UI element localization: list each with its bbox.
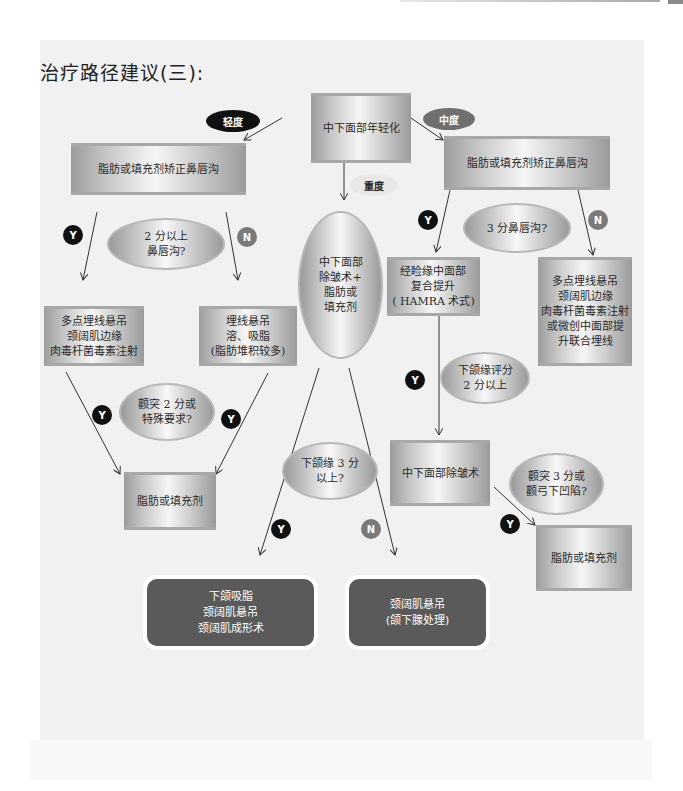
no-badge: N bbox=[237, 227, 257, 247]
yes-label: Y bbox=[411, 375, 418, 386]
severe-step-label: 中下面部 除皱术+ 脂肪或 填充剂 bbox=[319, 255, 363, 315]
severe-step: 中下面部 除皱术+ 脂肪或 填充剂 bbox=[298, 211, 383, 359]
yes-badge: Y bbox=[405, 370, 425, 390]
severe-badge: 重度 bbox=[350, 174, 398, 196]
mild-no-result: 埋线悬吊 溶、吸脂 (脂肪堆积较多) bbox=[199, 306, 297, 366]
no-badge: N bbox=[361, 519, 381, 539]
moderate-question-1-label: 3 分鼻唇沟? bbox=[487, 221, 547, 236]
moderate-no-result-label: 多点埋线悬吊 颈阔肌边缘 肉毒杆菌毒素注射 或微创中面部提 升联合埋线 bbox=[541, 274, 629, 349]
mild-yes-result-label: 多点埋线悬吊 颈阔肌边缘 肉毒杆菌毒素注射 bbox=[50, 314, 138, 359]
moderate-question-3: 颧突 3 分或 颧弓下凹陷? bbox=[509, 453, 604, 515]
moderate-question-3-label: 颧突 3 分或 颧弓下凹陷? bbox=[526, 469, 587, 499]
severe-question-label: 下颌缘 3 分 以上? bbox=[301, 456, 359, 486]
moderate-final-label: 脂肪或填充剂 bbox=[551, 551, 617, 566]
moderate-first-step-label: 脂肪或填充剂矫正鼻唇沟 bbox=[467, 156, 588, 171]
mild-question-2: 颧突 2 分或 特殊要求? bbox=[119, 383, 215, 441]
severe-yes-result-label: 下颌吸脂 颈阔肌悬吊 颈阔肌成形术 bbox=[198, 589, 264, 637]
root-label: 中下面部年轻化 bbox=[323, 121, 400, 136]
moderate-no-result: 多点埋线悬吊 颈阔肌边缘 肉毒杆菌毒素注射 或微创中面部提 升联合埋线 bbox=[538, 257, 632, 366]
mild-question-1: 2 分以上 鼻唇沟? bbox=[107, 218, 225, 270]
mild-yes-result: 多点埋线悬吊 颈阔肌边缘 肉毒杆菌毒素注射 bbox=[44, 306, 144, 366]
no-label: N bbox=[243, 232, 251, 243]
yes-badge: Y bbox=[418, 210, 438, 230]
moderate-first-step: 脂肪或填充剂矫正鼻唇沟 bbox=[444, 136, 610, 190]
mild-first-step-label: 脂肪或填充剂矫正鼻唇沟 bbox=[98, 162, 219, 177]
yes-badge: Y bbox=[221, 409, 241, 429]
moderate-label: 中度 bbox=[439, 112, 459, 127]
yes-label: Y bbox=[98, 410, 105, 421]
severe-label: 重度 bbox=[364, 178, 384, 193]
severe-yes-result: 下颌吸脂 颈阔肌悬吊 颈阔肌成形术 bbox=[143, 575, 318, 650]
severe-no-result-label: 颈阔肌悬吊 (颌下腺处理) bbox=[386, 597, 450, 629]
yes-badge: Y bbox=[271, 519, 291, 539]
mild-label: 轻度 bbox=[223, 114, 243, 129]
mild-question-2-label: 颧突 2 分或 特殊要求? bbox=[138, 397, 196, 427]
mild-badge: 轻度 bbox=[206, 110, 260, 132]
yes-label: Y bbox=[227, 414, 234, 425]
moderate-step-2-label: 中下面部除皱术 bbox=[402, 466, 479, 481]
moderate-step-2: 中下面部除皱术 bbox=[390, 440, 490, 506]
yes-badge: Y bbox=[92, 405, 112, 425]
yes-label: Y bbox=[69, 230, 76, 241]
moderate-question-2: 下颌缘评分 2 分以上 bbox=[440, 352, 530, 404]
mild-first-step: 脂肪或填充剂矫正鼻唇沟 bbox=[71, 143, 246, 195]
moderate-badge: 中度 bbox=[423, 108, 475, 130]
yes-label: Y bbox=[277, 524, 284, 535]
severe-no-result: 颈阔肌悬吊 (颌下腺处理) bbox=[345, 575, 490, 650]
no-label: N bbox=[594, 215, 602, 226]
yes-badge: Y bbox=[63, 225, 83, 245]
moderate-final: 脂肪或填充剂 bbox=[536, 525, 632, 591]
yes-label: Y bbox=[506, 519, 513, 530]
moderate-question-1: 3 分鼻唇沟? bbox=[463, 203, 571, 253]
mild-question-1-label: 2 分以上 鼻唇沟? bbox=[144, 229, 188, 259]
moderate-question-2-label: 下颌缘评分 2 分以上 bbox=[458, 363, 513, 393]
root-node: 中下面部年轻化 bbox=[311, 93, 411, 163]
no-badge: N bbox=[588, 210, 608, 230]
no-label: N bbox=[367, 524, 375, 535]
moderate-yes-result: 经睑缘中面部 复合提升 ( HAMRA 术式) bbox=[387, 257, 480, 316]
yes-label: Y bbox=[424, 215, 431, 226]
mild-final: 脂肪或填充剂 bbox=[124, 472, 216, 530]
moderate-yes-result-label: 经睑缘中面部 复合提升 ( HAMRA 术式) bbox=[392, 264, 475, 309]
severe-question: 下颌缘 3 分 以上? bbox=[282, 442, 378, 500]
mild-no-result-label: 埋线悬吊 溶、吸脂 (脂肪堆积较多) bbox=[211, 314, 286, 359]
yes-badge: Y bbox=[500, 514, 520, 534]
mild-final-label: 脂肪或填充剂 bbox=[137, 494, 203, 509]
